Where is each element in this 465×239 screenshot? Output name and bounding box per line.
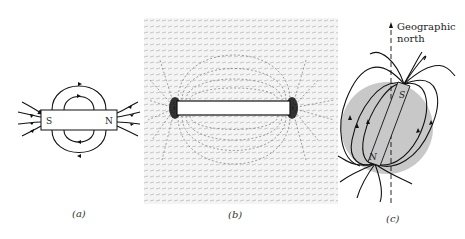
geographic-label-line2: north — [397, 33, 425, 44]
caption-a: (a) — [72, 208, 86, 219]
panel-b-iron-filings: (b) — [144, 18, 338, 220]
field-line-top-inner — [64, 97, 94, 111]
axis-arrow-icon — [389, 22, 393, 28]
pole-label-n-c: N — [368, 152, 378, 162]
pole-label-n-a: N — [105, 116, 113, 126]
field-line-top-outer — [52, 86, 106, 110]
geographic-label-line1: Geographic — [397, 21, 456, 32]
caption-c: (c) — [386, 213, 400, 224]
magnetic-field-figure: S N (a) (b) Geo — [0, 0, 465, 239]
bar-magnet-b — [177, 101, 290, 115]
panel-c-earth-magnet: Geographic north S N (c) — [338, 21, 456, 224]
pole-label-s-c: S — [399, 90, 405, 100]
field-line-bottom-inner — [64, 130, 94, 142]
panel-a-bar-magnet: S N (a) — [18, 82, 140, 219]
pole-label-s-a: S — [46, 116, 52, 126]
caption-b: (b) — [228, 209, 242, 220]
